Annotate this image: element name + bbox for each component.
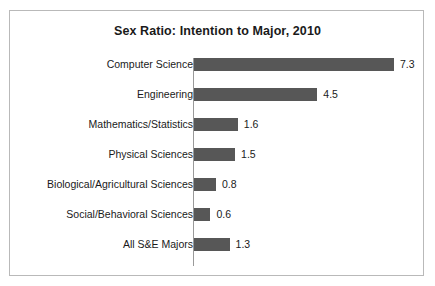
bar-mathematics-statistics <box>194 118 238 131</box>
bar-row: Social/Behavioral Sciences 0.6 <box>10 199 425 229</box>
bar-group-physical-sciences: 1.5 <box>194 148 256 161</box>
bar-social-behavioral-sciences <box>194 208 210 221</box>
category-label-mathematics-statistics: Mathematics/Statistics <box>0 119 193 130</box>
bar-row: Biological/Agricultural Sciences 0.8 <box>10 169 425 199</box>
value-label-engineering: 4.5 <box>323 89 338 100</box>
bar-row: All S&E Majors 1.3 <box>10 229 425 259</box>
bar-group-social-behavioral-sciences: 0.6 <box>194 208 231 221</box>
bar-biological-agricultural-sciences <box>194 178 216 191</box>
value-label-social-behavioral-sciences: 0.6 <box>216 209 231 220</box>
category-label-engineering: Engineering <box>0 89 193 100</box>
value-label-computer-science: 7.3 <box>400 59 415 70</box>
value-label-biological-agricultural-sciences: 0.8 <box>222 179 237 190</box>
plot-area: Computer Science 7.3 Engineering 4.5 Mat… <box>10 49 425 269</box>
value-label-all-se-majors: 1.3 <box>236 239 251 250</box>
bar-group-engineering: 4.5 <box>194 88 338 101</box>
chart-title: Sex Ratio: Intention to Major, 2010 <box>10 24 425 38</box>
bar-computer-science <box>194 58 394 71</box>
bar-row: Engineering 4.5 <box>10 79 425 109</box>
bar-engineering <box>194 88 317 101</box>
category-label-all-se-majors: All S&E Majors <box>0 239 193 250</box>
value-label-physical-sciences: 1.5 <box>241 149 256 160</box>
bar-group-all-se-majors: 1.3 <box>194 238 250 251</box>
category-label-physical-sciences: Physical Sciences <box>0 149 193 160</box>
category-label-social-behavioral-sciences: Social/Behavioral Sciences <box>0 209 193 220</box>
bar-row: Computer Science 7.3 <box>10 49 425 79</box>
category-label-biological-agricultural-sciences: Biological/Agricultural Sciences <box>0 179 193 190</box>
bar-group-biological-agricultural-sciences: 0.8 <box>194 178 237 191</box>
bar-group-computer-science: 7.3 <box>194 58 415 71</box>
bar-row: Physical Sciences 1.5 <box>10 139 425 169</box>
value-label-mathematics-statistics: 1.6 <box>244 119 259 130</box>
chart-frame: Sex Ratio: Intention to Major, 2010 Comp… <box>9 10 424 276</box>
bar-group-mathematics-statistics: 1.6 <box>194 118 258 131</box>
category-label-computer-science: Computer Science <box>0 59 193 70</box>
bar-physical-sciences <box>194 148 235 161</box>
bar-row: Mathematics/Statistics 1.6 <box>10 109 425 139</box>
bar-all-se-majors <box>194 238 230 251</box>
